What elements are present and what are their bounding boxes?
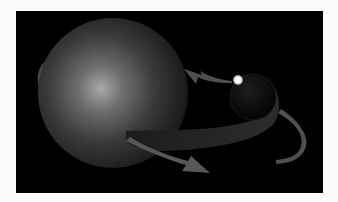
hotspot	[233, 75, 243, 85]
binary-star-illustration	[16, 11, 323, 193]
orbit-arrow-top	[184, 69, 232, 84]
image-panel	[16, 11, 323, 193]
orbit-arrow-right	[276, 109, 307, 164]
